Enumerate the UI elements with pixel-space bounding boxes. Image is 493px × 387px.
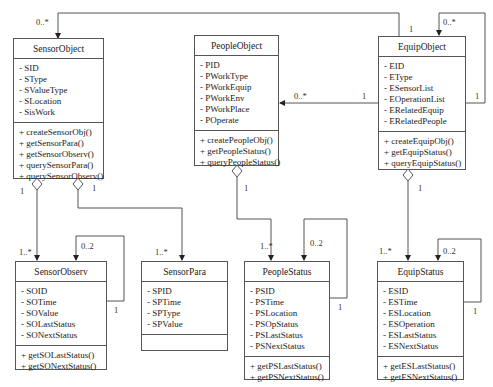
operation: + createEquipObj() bbox=[384, 136, 461, 147]
operation: + querySensorObserv() bbox=[19, 171, 99, 182]
attribute: - SPType bbox=[147, 308, 223, 319]
attributes: - EID - EType - ESensorList - EOperation… bbox=[379, 57, 465, 132]
multiplicity-label: 1..* bbox=[260, 241, 273, 251]
attribute: - ESOperation bbox=[383, 319, 459, 330]
multiplicity-label: 1 bbox=[475, 91, 479, 101]
class-equip-object[interactable]: EquipObject - EID - EType - ESensorList … bbox=[378, 36, 466, 170]
attribute: - SPID bbox=[147, 286, 223, 297]
attribute: - EOperationList bbox=[384, 94, 461, 105]
operation: + getPSLastStatus() bbox=[250, 361, 325, 372]
operations bbox=[142, 335, 227, 342]
multiplicity-label: 1..* bbox=[19, 247, 32, 257]
operation: + getSOLastStatus() bbox=[21, 350, 102, 361]
attribute: - ESID bbox=[383, 286, 459, 297]
multiplicity-label: 0..2 bbox=[310, 238, 323, 248]
attribute: - PSOpStatus bbox=[250, 319, 325, 330]
operation: + createPeopleObj() bbox=[200, 135, 274, 146]
operation: + getSensorObserv() bbox=[19, 149, 99, 160]
operations: + createEquipObj() + getEquipStatus() + … bbox=[379, 132, 465, 172]
multiplicity-label: 0..2 bbox=[443, 246, 456, 256]
multiplicity-label: 1..* bbox=[155, 247, 168, 257]
attribute: - ESNextStatus bbox=[383, 341, 459, 352]
operation: + queryPeopleStatus() bbox=[200, 157, 274, 168]
operation: + createSensorObj() bbox=[19, 127, 99, 138]
multiplicity-label: 0..* bbox=[36, 17, 49, 27]
attributes: - SOID - SOTime - SOValue - SOLastStatus… bbox=[16, 282, 106, 346]
attribute: - PSID bbox=[250, 286, 325, 297]
attribute: - SONextStatus bbox=[21, 330, 102, 341]
attribute: - PWorkEquip bbox=[200, 82, 274, 93]
attributes: - ESID - ESTime - ESLocation - ESOperati… bbox=[378, 282, 463, 357]
attribute: - SOValue bbox=[21, 308, 102, 319]
multiplicity-label: 1 bbox=[473, 306, 477, 316]
multiplicity-label: 1 bbox=[409, 24, 413, 34]
attributes: - PID - PWorkType - PWorkEquip - PWorkEn… bbox=[195, 56, 278, 131]
class-name: EquipObject bbox=[379, 37, 465, 57]
attribute: - ESTime bbox=[383, 297, 459, 308]
attribute: - SOLastStatus bbox=[21, 319, 102, 330]
attribute: - SValueType bbox=[19, 85, 99, 96]
attributes: - PSID - PSTime - PSLocation - PSOpStatu… bbox=[245, 282, 329, 357]
attribute: - SLocation bbox=[19, 96, 99, 107]
attribute: - ESLastStatus bbox=[383, 330, 459, 341]
attribute: - PID bbox=[200, 60, 274, 71]
attribute: - ESensorList bbox=[384, 83, 461, 94]
attribute: - SPTime bbox=[147, 297, 223, 308]
attribute: - SPValue bbox=[147, 319, 223, 330]
attribute: - PWorkType bbox=[200, 71, 274, 82]
multiplicity-label: 0..2 bbox=[81, 241, 94, 251]
multiplicity-label: 1..* bbox=[379, 246, 392, 256]
operations: + createPeopleObj() + getPeopleStatus() … bbox=[195, 131, 278, 171]
class-people-object[interactable]: PeopleObject - PID - PWorkType - PWorkEq… bbox=[194, 35, 279, 166]
operation: + getESLastStatus() bbox=[383, 361, 459, 372]
attribute: - PSLocation bbox=[250, 308, 325, 319]
attribute: - ESLocation bbox=[383, 308, 459, 319]
multiplicity-label: 1 bbox=[362, 91, 366, 101]
multiplicity-label: 1 bbox=[20, 186, 24, 196]
operations: + getSOLastStatus() + getSONextStatus() bbox=[16, 346, 106, 375]
attributes: - SPID - SPTime - SPType - SPValue bbox=[142, 282, 227, 335]
operations: + getPSLastStatus() + getPSNextStatus() bbox=[245, 357, 329, 386]
class-name: SensorObserv bbox=[16, 262, 106, 282]
operation: + getSensorPara() bbox=[19, 138, 99, 149]
operation: + getPeopleStatus() bbox=[200, 146, 274, 157]
class-name: EquipStatus bbox=[378, 262, 463, 282]
operation: + getSONextStatus() bbox=[21, 361, 102, 372]
class-name: PeopleStatus bbox=[245, 262, 329, 282]
multiplicity-label: 0..* bbox=[443, 17, 456, 27]
class-equip-status[interactable]: EquipStatus - ESID - ESTime - ESLocation… bbox=[377, 261, 464, 380]
operation: + getEquipStatus() bbox=[384, 147, 461, 158]
operation: + getPSNextStatus() bbox=[250, 372, 325, 383]
attribute: - ERelatedPeople bbox=[384, 116, 461, 127]
multiplicity-label: 1 bbox=[114, 305, 118, 315]
class-people-status[interactable]: PeopleStatus - PSID - PSTime - PSLocatio… bbox=[244, 261, 330, 380]
attribute: - SType bbox=[19, 74, 99, 85]
class-sensor-object[interactable]: SensorObject - SID - SType - SValueType … bbox=[13, 38, 104, 179]
class-name: SensorObject bbox=[14, 39, 103, 59]
class-sensor-observ[interactable]: SensorObserv - SOID - SOTime - SOValue -… bbox=[15, 261, 107, 370]
multiplicity-label: 1 bbox=[338, 302, 342, 312]
attribute: - POperate bbox=[200, 115, 274, 126]
attribute: - PWorkEnv bbox=[200, 93, 274, 104]
attribute: - PSNextStatus bbox=[250, 341, 325, 352]
attribute: - SID bbox=[19, 63, 99, 74]
class-name: SensorPara bbox=[142, 262, 227, 282]
attribute: - EID bbox=[384, 61, 461, 72]
attribute: - ERelatedEquip bbox=[384, 105, 461, 116]
attribute: - SisWork bbox=[19, 107, 99, 118]
attributes: - SID - SType - SValueType - SLocation -… bbox=[14, 59, 103, 123]
operations: + createSensorObj() + getSensorPara() + … bbox=[14, 123, 103, 185]
operation: + querySensorPara() bbox=[19, 160, 99, 171]
multiplicity-label: 1 bbox=[418, 183, 422, 193]
operations: + getESLastStatus() + getESNextStatus() bbox=[378, 357, 463, 386]
attribute: - PWorkPlace bbox=[200, 104, 274, 115]
class-sensor-para[interactable]: SensorPara - SPID - SPTime - SPType - SP… bbox=[141, 261, 228, 351]
operation: + getESNextStatus() bbox=[383, 372, 459, 383]
multiplicity-label: 1 bbox=[244, 183, 248, 193]
operation: + queryEquipStatus() bbox=[384, 158, 461, 169]
class-name: PeopleObject bbox=[195, 36, 278, 56]
multiplicity-label: 1 bbox=[92, 183, 96, 193]
attribute: - SOID bbox=[21, 286, 102, 297]
attribute: - EType bbox=[384, 72, 461, 83]
multiplicity-label: 0..* bbox=[294, 91, 307, 101]
